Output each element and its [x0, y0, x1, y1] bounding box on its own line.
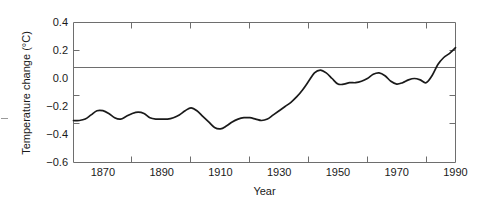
x-tick-label: 1890 [137, 166, 187, 178]
y-axis-ticks [74, 51, 456, 124]
y-tick-label: −0.2 [26, 100, 68, 112]
y-tick-label: −0.4 [26, 128, 68, 140]
x-tick-label: 1870 [78, 166, 128, 178]
x-tick-label: 1930 [254, 166, 304, 178]
x-tick-label: 1970 [372, 166, 422, 178]
x-axis-ticks [132, 23, 427, 163]
y-tick-label: 0.0 [26, 72, 68, 84]
temperature-change-chart-figure: Temperature change (°C) Year [0, 0, 477, 208]
axis-frame [74, 23, 456, 163]
x-tick-label: 1910 [195, 166, 245, 178]
x-tick-label: 1990 [431, 166, 477, 178]
y-tick-label: 0.2 [26, 44, 68, 56]
y-tick-label: −0.6 [26, 156, 68, 168]
plot-border [74, 23, 456, 163]
y-tick-label: 0.4 [26, 16, 68, 28]
x-tick-label: 1950 [313, 166, 363, 178]
temperature-series-line [74, 48, 456, 129]
